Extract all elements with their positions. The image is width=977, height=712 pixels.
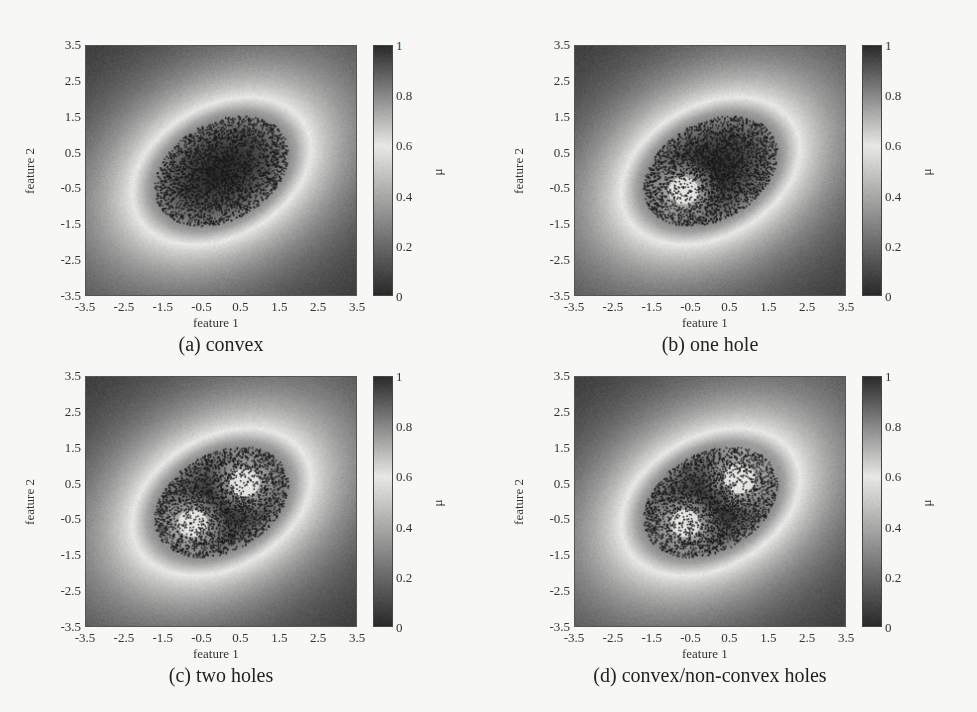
colorbar-tick-label: 0.8: [396, 89, 412, 102]
y-tick-label: 0.5: [536, 477, 570, 490]
x-axis-label: feature 1: [682, 646, 728, 662]
y-axis-label: feature 2: [22, 148, 38, 194]
colorbar-tick-label: 1: [396, 39, 403, 52]
colorbar: [862, 376, 882, 627]
colorbar-tick-label: 0: [885, 621, 892, 634]
colorbar-tick-label: 0.4: [396, 521, 412, 534]
colorbar: [862, 45, 882, 296]
y-tick-label: -1.5: [536, 217, 570, 230]
y-tick-label: 3.5: [536, 38, 570, 51]
x-tick-label: -3.5: [557, 300, 591, 313]
y-tick-label: -1.5: [536, 548, 570, 561]
colorbar-tick-label: 0.8: [885, 89, 901, 102]
panel-a: 3.52.51.50.5-0.5-1.5-2.5-3.5-3.5-2.5-1.5…: [0, 0, 488, 356]
panel-d: 3.52.51.50.5-0.5-1.5-2.5-3.5-3.5-2.5-1.5…: [489, 331, 977, 687]
colorbar-tick-label: 0.6: [885, 470, 901, 483]
colorbar-tick-label: 1: [885, 370, 892, 383]
y-tick-label: 1.5: [47, 441, 81, 454]
x-tick-label: -3.5: [68, 631, 102, 644]
y-tick-label: 0.5: [47, 477, 81, 490]
colorbar-tick-label: 0.4: [885, 190, 901, 203]
x-tick-label: 0.5: [223, 631, 257, 644]
x-tick-label: 1.5: [751, 631, 785, 644]
heatmap-plot-area: [574, 45, 846, 296]
y-tick-label: 1.5: [47, 110, 81, 123]
x-tick-label: -2.5: [596, 631, 630, 644]
colorbar-tick-label: 0.2: [396, 571, 412, 584]
heatmap-plot-area: [574, 376, 846, 627]
y-tick-label: -0.5: [47, 181, 81, 194]
y-axis-label: feature 2: [511, 148, 527, 194]
y-tick-label: 3.5: [47, 38, 81, 51]
y-tick-label: 0.5: [536, 146, 570, 159]
x-tick-label: 3.5: [829, 631, 863, 644]
y-tick-label: 2.5: [47, 405, 81, 418]
x-tick-label: 0.5: [223, 300, 257, 313]
x-tick-label: 2.5: [790, 631, 824, 644]
colorbar-tick-label: 0.2: [885, 571, 901, 584]
x-tick-label: 2.5: [790, 300, 824, 313]
colorbar-tick-label: 0.2: [885, 240, 901, 253]
y-tick-label: -0.5: [536, 512, 570, 525]
colorbar-tick-label: 1: [885, 39, 892, 52]
x-tick-label: 3.5: [829, 300, 863, 313]
x-tick-label: 1.5: [751, 300, 785, 313]
y-tick-label: 0.5: [47, 146, 81, 159]
y-tick-label: -1.5: [47, 217, 81, 230]
y-tick-label: 1.5: [536, 441, 570, 454]
y-tick-label: -0.5: [536, 181, 570, 194]
subfigure-caption: (c) two holes: [65, 664, 377, 687]
colorbar-tick-label: 0: [396, 290, 403, 303]
subfigure-caption: (d) convex/non-convex holes: [554, 664, 866, 687]
colorbar-label: μ: [919, 168, 935, 175]
colorbar-tick-label: 0.8: [885, 420, 901, 433]
x-tick-label: 2.5: [301, 631, 335, 644]
heatmap-plot-area: [85, 45, 357, 296]
colorbar-tick-label: 0.4: [396, 190, 412, 203]
colorbar: [373, 376, 393, 627]
y-tick-label: -2.5: [47, 584, 81, 597]
x-tick-label: 1.5: [262, 300, 296, 313]
colorbar-tick-label: 0.6: [396, 139, 412, 152]
x-tick-label: 0.5: [712, 300, 746, 313]
panel-b: 3.52.51.50.5-0.5-1.5-2.5-3.5-3.5-2.5-1.5…: [489, 0, 977, 356]
x-tick-label: -0.5: [674, 300, 708, 313]
x-axis-label: feature 1: [193, 646, 239, 662]
colorbar-tick-label: 0.6: [396, 470, 412, 483]
y-tick-label: 3.5: [536, 369, 570, 382]
y-axis-label: feature 2: [22, 479, 38, 525]
colorbar-label: μ: [430, 499, 446, 506]
x-tick-label: -0.5: [185, 300, 219, 313]
y-tick-label: 2.5: [47, 74, 81, 87]
y-tick-label: -1.5: [47, 548, 81, 561]
x-tick-label: -1.5: [146, 300, 180, 313]
y-tick-label: -0.5: [47, 512, 81, 525]
x-tick-label: -2.5: [596, 300, 630, 313]
colorbar-tick-label: 0.8: [396, 420, 412, 433]
colorbar-tick-label: 0: [396, 621, 403, 634]
x-tick-label: 1.5: [262, 631, 296, 644]
panel-c: 3.52.51.50.5-0.5-1.5-2.5-3.5-3.5-2.5-1.5…: [0, 331, 488, 687]
y-tick-label: 1.5: [536, 110, 570, 123]
colorbar-tick-label: 0.4: [885, 521, 901, 534]
y-tick-label: -2.5: [536, 253, 570, 266]
x-tick-label: 3.5: [340, 631, 374, 644]
y-tick-label: 3.5: [47, 369, 81, 382]
x-tick-label: 3.5: [340, 300, 374, 313]
colorbar-label: μ: [430, 168, 446, 175]
x-tick-label: -3.5: [557, 631, 591, 644]
x-tick-label: -1.5: [146, 631, 180, 644]
x-tick-label: 2.5: [301, 300, 335, 313]
y-tick-label: 2.5: [536, 74, 570, 87]
colorbar-tick-label: 1: [396, 370, 403, 383]
colorbar: [373, 45, 393, 296]
colorbar-tick-label: 0.2: [396, 240, 412, 253]
heatmap-plot-area: [85, 376, 357, 627]
x-axis-label: feature 1: [193, 315, 239, 331]
x-tick-label: -1.5: [635, 300, 669, 313]
x-tick-label: 0.5: [712, 631, 746, 644]
y-axis-label: feature 2: [511, 479, 527, 525]
y-tick-label: -2.5: [536, 584, 570, 597]
x-tick-label: -0.5: [674, 631, 708, 644]
y-tick-label: -2.5: [47, 253, 81, 266]
